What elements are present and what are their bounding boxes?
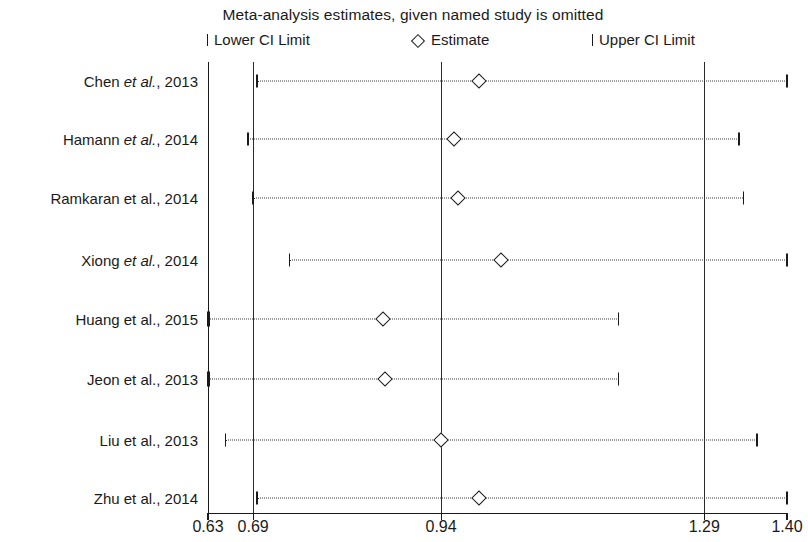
- reference-line-0.69: [253, 62, 254, 513]
- study-label-6: Liu et al., 2013: [100, 432, 198, 449]
- estimate-marker-4: [375, 311, 391, 327]
- estimate-marker-6: [433, 432, 449, 448]
- ci-line-4: [208, 319, 619, 320]
- lower-ci-cap-1: [247, 133, 248, 146]
- upper-ci-cap-7: [786, 492, 787, 505]
- study-label-2: Ramkaran et al., 2014: [50, 190, 198, 207]
- x-tick-label-1.40: 1.40: [771, 518, 802, 536]
- study-label-3: Xiong et al., 2014: [81, 252, 198, 269]
- study-label-5: Jeon et al., 2013: [87, 371, 198, 388]
- y-axis-line: [208, 62, 209, 513]
- upper-ci-cap-2: [743, 192, 744, 205]
- lower-ci-cap-3: [289, 254, 290, 267]
- chart-title: Meta-analysis estimates, given named stu…: [0, 6, 808, 24]
- reference-line-1.29: [704, 62, 705, 513]
- upper-ci-cap-4: [618, 313, 619, 326]
- x-axis-line: [208, 513, 788, 514]
- estimate-marker-1: [446, 131, 462, 147]
- lower-ci-cap-7: [256, 492, 257, 505]
- lower-ci-marker-icon: [207, 34, 208, 46]
- chart-title-text: Meta-analysis estimates, given named stu…: [223, 6, 604, 24]
- study-label-1: Hamann et al., 2014: [63, 131, 198, 148]
- x-tick-label-0.94: 0.94: [426, 518, 457, 536]
- legend-label-estimate: Estimate: [431, 31, 489, 48]
- upper-ci-cap-6: [756, 434, 757, 447]
- estimate-marker-3: [493, 252, 509, 268]
- legend-item-lower-ci: Lower CI Limit: [207, 31, 310, 51]
- lower-ci-cap-2: [252, 192, 253, 205]
- upper-ci-cap-5: [618, 373, 619, 386]
- meta-analysis-influence-plot: Meta-analysis estimates, given named stu…: [0, 0, 808, 542]
- study-label-4: Huang et al., 2015: [75, 311, 198, 328]
- estimate-marker-2: [451, 190, 467, 206]
- upper-ci-cap-3: [786, 254, 787, 267]
- estimate-diamond-icon: [411, 34, 425, 48]
- ci-line-0: [257, 81, 787, 82]
- x-tick-label-0.69: 0.69: [238, 518, 269, 536]
- ci-line-5: [208, 379, 619, 380]
- ci-line-3: [289, 260, 787, 261]
- study-label-7: Zhu et al., 2014: [94, 490, 198, 507]
- legend-label-upper-ci: Upper CI Limit: [599, 31, 695, 48]
- upper-ci-cap-1: [738, 133, 739, 146]
- upper-ci-cap-0: [786, 75, 787, 88]
- estimate-marker-7: [472, 490, 488, 506]
- legend-label-lower-ci: Lower CI Limit: [214, 31, 310, 48]
- legend-item-estimate: Estimate: [413, 31, 489, 51]
- lower-ci-cap-5: [207, 372, 209, 387]
- ci-line-1: [248, 139, 739, 140]
- lower-ci-cap-0: [256, 75, 257, 88]
- study-label-0: Chen et al., 2013: [84, 73, 198, 90]
- x-tick-label-0.63: 0.63: [192, 518, 223, 536]
- ci-line-2: [253, 198, 743, 199]
- x-tick-label-1.29: 1.29: [689, 518, 720, 536]
- lower-ci-cap-6: [225, 434, 226, 447]
- lower-ci-cap-4: [207, 312, 209, 327]
- estimate-marker-0: [472, 73, 488, 89]
- estimate-marker-5: [378, 371, 394, 387]
- upper-ci-marker-icon: [592, 34, 593, 46]
- legend-item-upper-ci: Upper CI Limit: [592, 31, 695, 51]
- ci-line-6: [225, 440, 757, 441]
- ci-line-7: [257, 498, 787, 499]
